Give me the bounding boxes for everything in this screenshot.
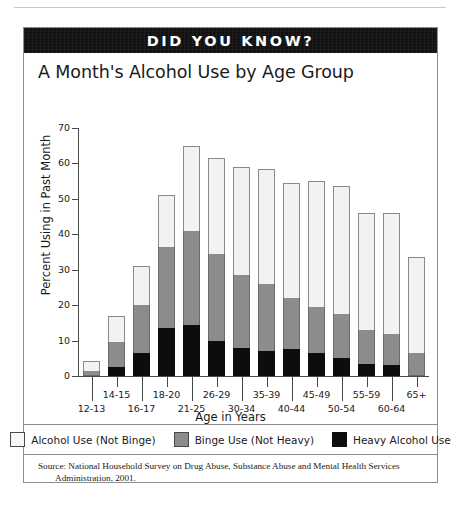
x-tick-14-15 bbox=[117, 377, 118, 387]
y-tick-label-0: 0 bbox=[40, 370, 70, 381]
bar-segment-black-40-44 bbox=[283, 349, 300, 376]
x-axis-line bbox=[78, 376, 429, 377]
bar-group bbox=[79, 128, 429, 376]
bar-segment-gray-26-29 bbox=[208, 254, 225, 341]
chart-legend: Alcohol Use (Not Binge) Binge Use (Not H… bbox=[24, 424, 437, 454]
bar-segment-black-35-39 bbox=[258, 351, 275, 376]
bar-segment-black-45-49 bbox=[308, 353, 325, 376]
chart-title: A Month's Alcohol Use by Age Group bbox=[38, 62, 354, 82]
bar-segment-white-55-59 bbox=[358, 213, 375, 330]
source-line-1: Source: National Household Survey on Dru… bbox=[38, 461, 425, 473]
bar-45-49 bbox=[308, 181, 325, 376]
bar-segment-black-26-29 bbox=[208, 341, 225, 376]
bar-segment-gray-30-34 bbox=[233, 275, 250, 348]
x-tick-35-39 bbox=[267, 377, 268, 387]
bar-segment-white-26-29 bbox=[208, 158, 225, 254]
y-tick-label-60: 60 bbox=[40, 157, 70, 168]
x-tick-label-35-39: 35-39 bbox=[253, 389, 281, 400]
bar-segment-black-16-17 bbox=[133, 353, 150, 376]
bar-segment-black-21-25 bbox=[183, 325, 200, 376]
bar-segment-gray-50-54 bbox=[333, 314, 350, 358]
x-tick-65+ bbox=[417, 377, 418, 387]
x-tick-40-44 bbox=[292, 377, 293, 401]
bar-segment-gray-35-39 bbox=[258, 284, 275, 351]
bar-segment-white-35-39 bbox=[258, 169, 275, 284]
bar-65+ bbox=[408, 257, 425, 376]
bar-55-59 bbox=[358, 213, 375, 376]
legend-swatch-black-icon bbox=[332, 432, 347, 447]
x-tick-label-55-59: 55-59 bbox=[353, 389, 381, 400]
y-tick-label-50: 50 bbox=[40, 193, 70, 204]
x-tick-26-29 bbox=[217, 377, 218, 387]
bar-segment-gray-60-64 bbox=[383, 334, 400, 366]
x-tick-label-65+: 65+ bbox=[406, 389, 426, 400]
legend-swatch-white-icon bbox=[10, 432, 25, 447]
y-tick-label-20: 20 bbox=[40, 299, 70, 310]
bar-segment-white-12-13 bbox=[83, 361, 100, 371]
legend-item-heavy-alcohol-use: Heavy Alcohol Use bbox=[332, 432, 451, 447]
bar-segment-white-60-64 bbox=[383, 213, 400, 333]
y-tick-label-70: 70 bbox=[40, 122, 70, 133]
bar-12-13 bbox=[83, 361, 100, 376]
bar-segment-gray-40-44 bbox=[283, 298, 300, 349]
bar-segment-gray-55-59 bbox=[358, 330, 375, 364]
legend-item-alcohol-use-not-binge: Alcohol Use (Not Binge) bbox=[10, 432, 155, 447]
bar-segment-gray-16-17 bbox=[133, 305, 150, 353]
x-tick-12-13 bbox=[92, 377, 93, 401]
x-tick-label-45-49: 45-49 bbox=[303, 389, 331, 400]
bar-segment-gray-12-13 bbox=[83, 371, 100, 376]
bar-14-15 bbox=[108, 316, 125, 376]
bar-segment-gray-21-25 bbox=[183, 231, 200, 325]
bar-segment-white-16-17 bbox=[133, 266, 150, 305]
bar-segment-black-60-64 bbox=[383, 365, 400, 376]
bar-segment-black-30-34 bbox=[233, 348, 250, 376]
legend-label-1: Binge Use (Not Heavy) bbox=[195, 434, 314, 446]
bar-segment-white-45-49 bbox=[308, 181, 325, 307]
x-tick-label-26-29: 26-29 bbox=[203, 389, 231, 400]
figure-box: DID YOU KNOW? A Month's Alcohol Use by A… bbox=[23, 27, 438, 483]
x-tick-label-14-15: 14-15 bbox=[103, 389, 131, 400]
legend-label-0: Alcohol Use (Not Binge) bbox=[31, 434, 155, 446]
bar-segment-black-18-20 bbox=[158, 328, 175, 376]
legend-label-2: Heavy Alcohol Use bbox=[353, 434, 451, 446]
bar-segment-white-40-44 bbox=[283, 183, 300, 298]
bar-segment-white-21-25 bbox=[183, 146, 200, 231]
bar-segment-white-50-54 bbox=[333, 186, 350, 314]
x-tick-45-49 bbox=[317, 377, 318, 387]
x-tick-16-17 bbox=[142, 377, 143, 401]
bar-30-34 bbox=[233, 167, 250, 376]
bar-segment-black-50-54 bbox=[333, 358, 350, 376]
bar-segment-white-14-15 bbox=[108, 316, 125, 343]
bar-segment-white-30-34 bbox=[233, 167, 250, 275]
page-running-head bbox=[14, 0, 446, 9]
legend-item-binge-use-not-heavy: Binge Use (Not Heavy) bbox=[174, 432, 314, 447]
bar-segment-gray-65+ bbox=[408, 353, 425, 376]
bar-segment-white-65+ bbox=[408, 257, 425, 353]
y-tick-label-40: 40 bbox=[40, 228, 70, 239]
x-tick-60-64 bbox=[392, 377, 393, 401]
bar-segment-white-18-20 bbox=[158, 195, 175, 246]
y-tick-label-10: 10 bbox=[40, 335, 70, 346]
bar-40-44 bbox=[283, 183, 300, 376]
x-tick-label-18-20: 18-20 bbox=[153, 389, 181, 400]
plot-area: Percent Using in Past Month 010203040506… bbox=[24, 90, 437, 420]
bar-segment-gray-18-20 bbox=[158, 247, 175, 328]
bar-50-54 bbox=[333, 186, 350, 376]
bar-segment-gray-14-15 bbox=[108, 342, 125, 367]
legend-swatch-gray-icon bbox=[174, 432, 189, 447]
bar-60-64 bbox=[383, 213, 400, 376]
bar-35-39 bbox=[258, 169, 275, 376]
bar-21-25 bbox=[183, 146, 200, 376]
banner-label: DID YOU KNOW? bbox=[147, 33, 315, 49]
y-axis-title: Percent Using in Past Month bbox=[39, 125, 53, 305]
source-note: Source: National Household Survey on Dru… bbox=[24, 454, 437, 482]
x-tick-18-20 bbox=[167, 377, 168, 387]
x-tick-21-25 bbox=[192, 377, 193, 401]
x-tick-30-34 bbox=[242, 377, 243, 401]
bar-segment-black-55-59 bbox=[358, 364, 375, 376]
x-tick-50-54 bbox=[342, 377, 343, 401]
bar-18-20 bbox=[158, 195, 175, 376]
x-tick-55-59 bbox=[367, 377, 368, 387]
bar-segment-black-14-15 bbox=[108, 367, 125, 376]
source-line-2: Administration, 2001. bbox=[38, 473, 425, 485]
